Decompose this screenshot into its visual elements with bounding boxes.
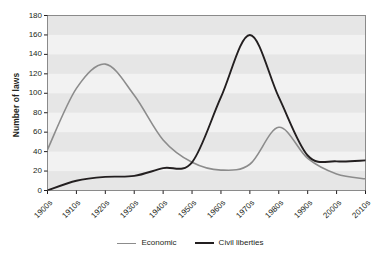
chart-legend: EconomicCivil liberties — [0, 239, 381, 247]
x-axis-tick-labels: 1900s1910s1920s1930s1940s1950s1960s1970s… — [0, 0, 381, 260]
legend-item-economic[interactable]: Economic — [117, 239, 176, 247]
legend-label: Civil liberties — [219, 239, 264, 247]
legend-item-civil-liberties[interactable]: Civil liberties — [195, 239, 264, 247]
chart-container: Number of laws 020406080100120140160180 … — [0, 0, 381, 260]
legend-swatch-icon — [195, 242, 214, 244]
legend-label: Economic — [141, 239, 176, 247]
legend-swatch-icon — [117, 243, 136, 244]
